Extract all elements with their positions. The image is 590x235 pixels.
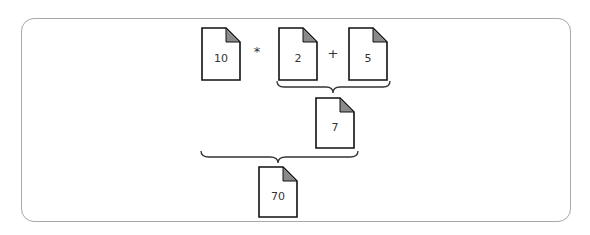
document-5: 5	[349, 28, 387, 80]
document-70-label: 70	[271, 190, 285, 203]
document-2-label: 2	[295, 52, 302, 65]
document-7-label: 7	[332, 121, 339, 134]
brace-sum	[277, 81, 390, 93]
document-10: 10	[202, 28, 240, 80]
plus-operator: +	[328, 46, 339, 61]
document-5-label: 5	[365, 52, 372, 65]
expression-diagram: 10 * 2 + 5 7 70	[0, 0, 590, 235]
document-2: 2	[279, 28, 317, 80]
brace-product	[201, 151, 358, 163]
multiply-operator: *	[254, 44, 261, 59]
document-10-label: 10	[214, 52, 228, 65]
document-70: 70	[259, 167, 297, 217]
document-7: 7	[316, 98, 354, 148]
